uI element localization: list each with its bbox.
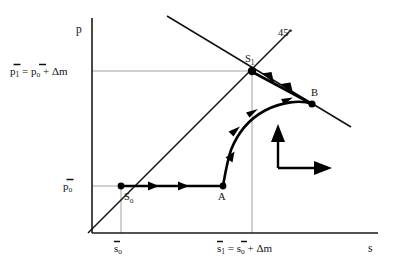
axes-group [92,18,378,233]
svg-text:so: so [114,242,122,256]
arrowhead-right-1 [148,182,159,191]
forty-five-degree-label: 45o [278,26,293,38]
s0-label-sub: o [130,196,134,205]
x-tick-label-s1: s1 = so + Δm [217,242,273,257]
forty-five-number: 45 [278,27,289,38]
arrowhead-right-2 [178,182,189,191]
trajectory-a-to-b [223,102,312,186]
y-tick-label-p0: po [63,180,74,195]
downward-sloping-line [167,16,351,127]
point-label-b: B [311,87,318,98]
point-label-a: A [218,191,226,202]
point-dot-a [220,183,227,190]
gridlines-group [92,71,252,233]
point-dot-s1 [248,67,256,75]
point-dot-s0 [118,183,125,190]
s0-sub: o [118,247,122,256]
svg-text:s1 = so + Δm: s1 = so + Δm [217,242,273,256]
degree-symbol-icon: o [289,26,293,34]
p1-delta: Δm [52,65,68,77]
arrow-markers-arc [226,98,294,163]
point-dot-b [308,100,315,107]
direction-indicator [271,124,332,175]
phase-diagram-svg: p s p1 = po + Δm po so s1 = [0,0,393,267]
point-label-s0: So [124,191,134,205]
x-tick-label-s0: so [114,242,122,257]
x-axis-label: s [368,242,373,254]
svg-text:p1 = po + Δm: p1 = po + Δm [10,65,68,79]
forty-five-degree-line [88,30,291,233]
p0-lower-sub: o [69,185,73,194]
direction-right-arrowhead-icon [314,161,332,175]
s1-delta: Δm [257,242,273,254]
y-axis-label: p [76,23,82,36]
y-tick-label-p1: p1 = po + Δm [10,65,68,80]
diagram-canvas: p s p1 = po + Δm po so s1 = [0,0,393,267]
direction-up-arrowhead-icon [271,124,285,142]
s1-label-sub: 1 [251,58,255,67]
svg-text:po: po [63,180,73,194]
